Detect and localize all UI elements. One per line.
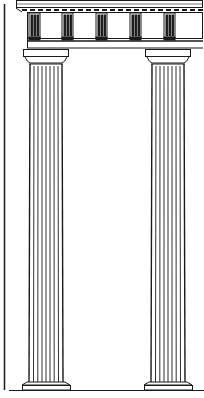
column-left — [22, 50, 71, 391]
echinus — [147, 57, 189, 63]
plinth — [145, 386, 193, 391]
fluted-shaft — [151, 64, 185, 382]
column-base — [22, 382, 70, 385]
triglyph — [164, 13, 175, 40]
doric-columns-illustration — [0, 0, 204, 398]
abacus — [146, 50, 191, 57]
fluted-shaft — [29, 64, 63, 382]
triglyphs — [29, 13, 175, 40]
echinus — [25, 57, 67, 63]
triglyph — [62, 13, 73, 40]
plinth — [23, 386, 71, 391]
column-base — [144, 382, 192, 385]
entablature — [16, 1, 203, 49]
frieze — [28, 13, 203, 39]
column-right — [144, 50, 193, 391]
triglyph — [29, 13, 40, 40]
doric-columns-drawing — [0, 0, 204, 398]
triglyph — [130, 13, 141, 40]
triglyph — [96, 13, 107, 40]
abacus — [24, 50, 69, 57]
